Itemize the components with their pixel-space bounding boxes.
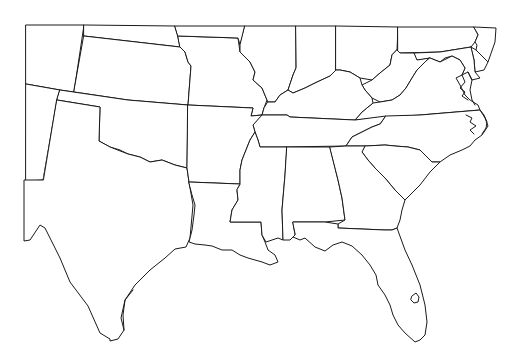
southeast-us-outline-map	[0, 0, 520, 361]
state-borders	[24, 25, 496, 342]
state-florida	[293, 222, 427, 342]
map-container	[0, 0, 520, 361]
